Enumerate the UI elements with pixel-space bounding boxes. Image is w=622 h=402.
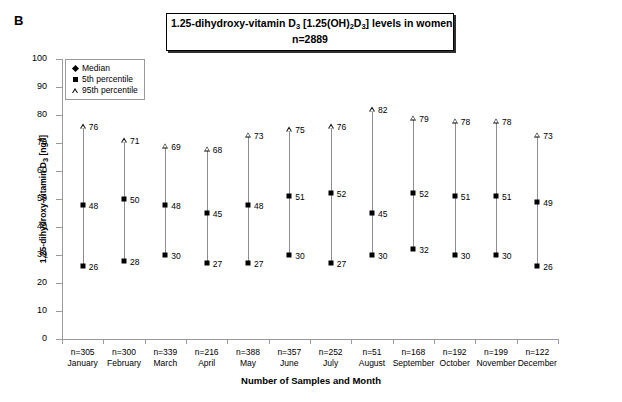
range-whisker (496, 121, 497, 255)
triangle-marker (328, 124, 334, 129)
data-value-label: 78 (502, 117, 511, 127)
y-axis-tick: 80 (56, 115, 62, 116)
month-label: November (475, 358, 516, 369)
x-axis-category-label: n=122December (517, 347, 558, 369)
sample-count-label: n=305 (62, 347, 103, 358)
square-marker (452, 253, 457, 258)
triangle-marker (493, 118, 499, 123)
square-marker (204, 261, 209, 266)
diamond-marker (122, 197, 127, 202)
x-axis-category-label: n=300February (103, 347, 144, 369)
x-axis-category-label: n=216April (186, 347, 227, 369)
x-axis-tick (103, 339, 104, 344)
chart-title-line-2: n=2889 (171, 33, 449, 46)
month-label: May (227, 358, 268, 369)
y-axis-tick-label: 60 (37, 165, 47, 175)
sample-count-label: n=168 (393, 347, 434, 358)
y-axis-tick: 90 (56, 87, 62, 88)
data-value-label: 73 (543, 131, 552, 141)
y-axis-tick: 40 (56, 227, 62, 228)
x-axis-tick (475, 339, 476, 344)
diamond-marker (80, 202, 85, 207)
data-value-label: 52 (337, 189, 346, 199)
y-axis-tick: 50 (56, 199, 62, 200)
x-axis-category-label: n=339March (145, 347, 186, 369)
triangle-marker (162, 143, 168, 148)
sample-count-label: n=357 (269, 347, 310, 358)
legend-item: 5th percentile (70, 74, 138, 85)
month-label: October (434, 358, 475, 369)
sample-count-label: n=51 (351, 347, 392, 358)
y-axis-tick-label: 100 (32, 53, 47, 63)
x-axis-category-label: n=388May (227, 347, 268, 369)
x-axis-tick (434, 339, 435, 344)
x-axis-category-label: n=192October (434, 347, 475, 369)
diamond-marker (535, 199, 540, 204)
diamond-marker (287, 194, 292, 199)
panel-label: B (14, 13, 24, 28)
data-value-label: 32 (419, 245, 428, 255)
y-axis-tick-label: 50 (37, 193, 47, 203)
square-marker (370, 253, 375, 258)
data-value-label: 30 (295, 251, 304, 261)
month-label: December (517, 358, 558, 369)
square-marker (246, 261, 251, 266)
range-whisker (207, 149, 208, 264)
range-whisker (83, 126, 84, 266)
triangle-marker (286, 127, 292, 132)
data-value-label: 52 (419, 189, 428, 199)
y-axis-tick-label: 30 (37, 249, 47, 259)
x-axis-category-label: n=199November (475, 347, 516, 369)
data-value-label: 51 (502, 192, 511, 202)
square-marker (70, 77, 80, 82)
data-value-label: 27 (213, 259, 222, 269)
month-label: March (145, 358, 186, 369)
sample-count-label: n=339 (145, 347, 186, 358)
plot-area: 1,25-dihydroxy-vitamin D3 [ng/l] 0102030… (62, 59, 558, 339)
x-axis-category-label: n=51August (351, 347, 392, 369)
data-value-label: 45 (213, 209, 222, 219)
data-value-label: 68 (213, 145, 222, 155)
data-value-label: 49 (543, 198, 552, 208)
range-whisker (289, 129, 290, 255)
data-value-label: 48 (254, 201, 263, 211)
data-value-label: 50 (130, 195, 139, 205)
y-axis-tick-label: 0 (42, 333, 47, 343)
data-value-label: 82 (378, 105, 387, 115)
x-axis-category-label: n=357June (269, 347, 310, 369)
square-marker (80, 264, 85, 269)
diamond-marker (70, 66, 80, 71)
data-value-label: 27 (337, 259, 346, 269)
sample-count-label: n=388 (227, 347, 268, 358)
x-axis-category-label: n=252July (310, 347, 351, 369)
y-axis-tick: 60 (56, 171, 62, 172)
diamond-marker (370, 211, 375, 216)
diamond-marker (204, 211, 209, 216)
data-value-label: 26 (543, 262, 552, 272)
data-value-label: 26 (89, 262, 98, 272)
square-marker (122, 258, 127, 263)
month-label: August (351, 358, 392, 369)
x-axis-category-label: n=305January (62, 347, 103, 369)
sample-count-label: n=192 (434, 347, 475, 358)
data-value-label: 51 (461, 192, 470, 202)
data-value-label: 71 (130, 136, 139, 146)
x-axis-tick (310, 339, 311, 344)
x-axis-tick (558, 339, 559, 344)
data-value-label: 28 (130, 257, 139, 267)
x-axis-category-label: n=168September (393, 347, 434, 369)
month-label: September (393, 358, 434, 369)
range-whisker (248, 135, 249, 264)
data-value-label: 30 (171, 251, 180, 261)
legend-item: Median (70, 63, 138, 74)
y-axis-tick: 10 (56, 311, 62, 312)
month-label: February (103, 358, 144, 369)
triangle-marker (410, 115, 416, 120)
square-marker (411, 247, 416, 252)
month-label: July (310, 358, 351, 369)
diamond-marker (246, 202, 251, 207)
chart-legend: Median5th percentile95th percentile (65, 59, 145, 100)
sample-count-label: n=252 (310, 347, 351, 358)
month-label: April (186, 358, 227, 369)
data-value-label: 75 (295, 125, 304, 135)
